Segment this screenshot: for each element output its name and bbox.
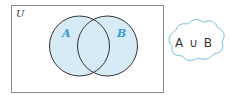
set-a-label: A bbox=[62, 27, 71, 40]
universe-label: U bbox=[16, 8, 24, 19]
callout-text: A ∪ B bbox=[169, 36, 219, 50]
set-b-label: B bbox=[117, 27, 126, 40]
